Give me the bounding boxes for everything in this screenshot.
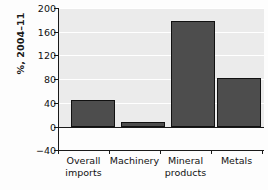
x-tick-mark (211, 150, 212, 154)
y-axis-title: %, 2004–11 (15, 4, 26, 84)
x-tick-mark (58, 150, 59, 154)
x-category-line-2: imports (58, 167, 109, 179)
y-tick-label: −40 (30, 146, 56, 156)
x-tick-mark (160, 150, 161, 154)
x-category-labels: Overall imports Machinery Mineral produc… (58, 155, 264, 189)
y-tick-label: 80 (30, 75, 56, 85)
x-category-line-1: Overall (67, 155, 101, 166)
x-category-line-1: Metals (221, 155, 252, 166)
y-tick-label: 0 (30, 123, 56, 133)
bar-mineral-products (171, 21, 215, 127)
x-category-label-machinery: Machinery (109, 155, 160, 167)
y-tick-label: 120 (30, 51, 56, 61)
bar-chart: %, 2004–11 200 160 120 80 40 0 −40 (0, 0, 268, 190)
x-category-label-overall-imports: Overall imports (58, 155, 109, 178)
bars-layer (59, 8, 264, 127)
y-tick-label: 160 (30, 28, 56, 38)
x-category-label-metals: Metals (211, 155, 262, 167)
x-category-line-1: Machinery (110, 155, 159, 166)
x-tick-mark (109, 150, 110, 154)
y-tick-labels: 200 160 120 80 40 0 −40 (28, 0, 56, 190)
zero-baseline (58, 127, 264, 128)
x-category-label-mineral-products: Mineral products (160, 155, 211, 178)
x-tick-mark (262, 150, 263, 154)
y-tick-label: 200 (30, 4, 56, 14)
x-category-line-1: Mineral (168, 155, 203, 166)
y-tick-label: 40 (30, 99, 56, 109)
bar-overall-imports (71, 100, 115, 127)
bar-metals (217, 78, 261, 127)
x-category-line-2: products (160, 167, 211, 179)
